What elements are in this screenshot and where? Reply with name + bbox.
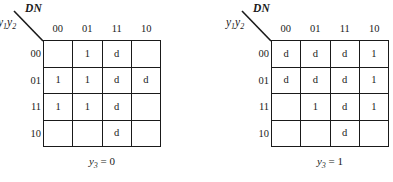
kmap-right-caption-sub: 3 — [322, 161, 326, 170]
kmap-left-col-header-1: 01 — [73, 22, 103, 36]
kmap-right-cell-r2c0 — [272, 94, 301, 121]
kmap-left-caption-value: 0 — [110, 155, 116, 167]
kmap-right-cell-r1c3: 1 — [360, 68, 389, 95]
kmap-left-caption-var: y3 — [89, 155, 98, 167]
kmap-left-caption-equals: = — [101, 155, 107, 167]
kmap-left-cell-r2c2: d — [103, 94, 132, 121]
kmap-right-caption: y3 = 1 — [271, 155, 389, 170]
kmap-left-col-header-0: 00 — [43, 22, 73, 36]
kmap-left-caption-sub: 3 — [94, 161, 98, 170]
kmap-right-cell-r1c0: d — [272, 68, 301, 95]
kmap-right-row-header-3: 10 — [250, 120, 269, 147]
kmap-right-corner-header: DN y1y2 — [228, 2, 276, 44]
kmap-right-column-variable-label: DN — [253, 2, 270, 14]
kmap-right-caption-value: 1 — [338, 155, 344, 167]
kmap-right-row-headers: 00 01 11 10 — [250, 40, 269, 147]
kmap-left-grid: 1 d 1 1 d d 1 1 d d — [43, 40, 161, 147]
kmap-left-cell-r2c0: 1 — [44, 94, 73, 121]
kmap-left-cell-r2c3 — [132, 94, 161, 121]
kmap-right-cell-r2c3: 1 — [360, 94, 389, 121]
kmap-left-cell-r1c1: 1 — [73, 68, 102, 95]
kmap-left-row-header-3: 10 — [22, 120, 41, 147]
kmap-right-column-headers: 00 01 11 10 — [271, 22, 389, 36]
kmap-left-cell-r0c3 — [132, 41, 161, 68]
kmap-right-cell-r3c1 — [301, 121, 330, 148]
kmap-right-cell-r2c2: d — [331, 94, 360, 121]
kmap-left-corner-header: DN y1y2 — [0, 2, 48, 44]
kmap-left-col-header-3: 10 — [132, 22, 162, 36]
kmap-left-row-variable-label: y1y2 — [0, 16, 16, 31]
kmap-left-cell-r3c3 — [132, 121, 161, 148]
kmap-right-caption-equals: = — [329, 155, 335, 167]
kmap-left-cell-r2c1: 1 — [73, 94, 102, 121]
kmap-right-cell-r3c0 — [272, 121, 301, 148]
kmap-right-col-header-0: 00 — [271, 22, 301, 36]
kmap-right-col-header-3: 10 — [360, 22, 390, 36]
kmap-right-row-header-1: 01 — [250, 67, 269, 94]
kmap-right-cell-r0c1: d — [301, 41, 330, 68]
kmap-left-caption: y3 = 0 — [43, 155, 161, 170]
kmap-right-cell-r0c3: 1 — [360, 41, 389, 68]
kmap-left-cell-r0c0 — [44, 41, 73, 68]
kmap-right-col-header-1: 01 — [301, 22, 331, 36]
kmap-right-cell-r1c2: d — [331, 68, 360, 95]
kmap-left-cell-r3c2: d — [103, 121, 132, 148]
kmap-right: DN y1y2 00 01 11 10 00 01 11 10 d d d 1 … — [228, 0, 393, 182]
kmap-left-row-header-0: 00 — [22, 40, 41, 67]
kmap-right-cell-r0c2: d — [331, 41, 360, 68]
kmap-right-row-header-2: 11 — [250, 94, 269, 121]
kmap-left-row-header-1: 01 — [22, 67, 41, 94]
kmap-right-cell-r3c3 — [360, 121, 389, 148]
kmap-left: DN y1y2 00 01 11 10 00 01 11 10 1 d 1 1 … — [0, 0, 185, 182]
kmap-left-cell-r0c1: 1 — [73, 41, 102, 68]
kmap-right-cell-r1c1: d — [301, 68, 330, 95]
kmap-left-cell-r1c2: d — [103, 68, 132, 95]
kmap-left-cell-r3c0 — [44, 121, 73, 148]
kmap-right-row-variable-label: y1y2 — [226, 16, 244, 31]
kmap-right-cell-r0c0: d — [272, 41, 301, 68]
kmap-left-cell-r0c2: d — [103, 41, 132, 68]
kmap-left-cell-r3c1 — [73, 121, 102, 148]
kmap-right-row-header-0: 00 — [250, 40, 269, 67]
kmap-right-cell-r2c1: 1 — [301, 94, 330, 121]
kmap-left-column-headers: 00 01 11 10 — [43, 22, 161, 36]
kmap-right-caption-var: y3 — [317, 155, 326, 167]
kmap-left-cell-r1c3: d — [132, 68, 161, 95]
kmap-left-cell-r1c0: 1 — [44, 68, 73, 95]
kmap-left-col-header-2: 11 — [102, 22, 132, 36]
kmap-left-row-header-2: 11 — [22, 94, 41, 121]
kmap-right-cell-r3c2: d — [331, 121, 360, 148]
kmap-left-column-variable-label: DN — [25, 2, 42, 14]
kmap-right-col-header-2: 11 — [330, 22, 360, 36]
kmap-left-row-headers: 00 01 11 10 — [22, 40, 41, 147]
kmap-right-grid: d d d 1 d d d 1 1 d 1 d — [271, 40, 389, 147]
